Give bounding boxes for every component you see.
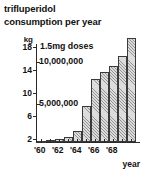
bar-1969 bbox=[118, 56, 127, 142]
y-tick-label-18: 18 bbox=[0, 43, 32, 52]
bar-1968 bbox=[109, 66, 118, 142]
x-tick-label-60: '60 bbox=[34, 146, 45, 155]
x-tick-1965 bbox=[86, 139, 87, 143]
chart-figure: trifluperidol consumption per year kg 18… bbox=[0, 0, 143, 177]
plot-area: kg 18 14 10 6 2 bbox=[0, 0, 143, 177]
annotation-dose-size: 1.5mg doses bbox=[40, 42, 93, 51]
x-tick-1964 bbox=[77, 139, 78, 143]
x-tick-label-68: '68 bbox=[106, 146, 117, 155]
x-tick-1967 bbox=[104, 139, 105, 143]
annotation-10-million: 10,000,000 bbox=[39, 57, 83, 66]
y-tick-6 bbox=[33, 116, 37, 117]
bar-1966 bbox=[91, 79, 100, 142]
x-tick-label-62: '62 bbox=[52, 146, 63, 155]
x-tick-1960 bbox=[41, 139, 42, 143]
y-tick-10 bbox=[33, 93, 37, 94]
x-tick-label-66: '66 bbox=[88, 146, 99, 155]
bar-1970 bbox=[127, 38, 136, 142]
bar-1965 bbox=[82, 106, 91, 142]
x-tick-1963 bbox=[68, 139, 69, 143]
y-tick-label-6: 6 bbox=[0, 112, 32, 121]
y-tick-label-2: 2 bbox=[0, 135, 32, 144]
x-tick-1962 bbox=[59, 139, 60, 143]
y-tick-2 bbox=[33, 139, 37, 140]
y-tick-label-10: 10 bbox=[0, 89, 32, 98]
x-tick-1961 bbox=[50, 139, 51, 143]
x-axis-label: year bbox=[123, 160, 141, 169]
y-tick-label-14: 14 bbox=[0, 66, 32, 75]
y-tick-18 bbox=[33, 47, 37, 48]
x-tick-label-64: '64 bbox=[70, 146, 81, 155]
x-tick-1970 bbox=[131, 139, 132, 143]
annotation-5-million: 5,000,000 bbox=[39, 99, 78, 108]
y-tick-14 bbox=[33, 70, 37, 71]
x-tick-1966 bbox=[95, 139, 96, 143]
x-tick-1969 bbox=[122, 139, 123, 143]
x-tick-1968 bbox=[113, 139, 114, 143]
bar-1967 bbox=[100, 72, 109, 142]
